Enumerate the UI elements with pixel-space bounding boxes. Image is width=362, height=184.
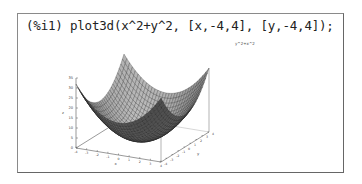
svg-text:x: x (115, 161, 118, 166)
svg-text:-4: -4 (164, 162, 167, 166)
svg-text:y: y (197, 151, 200, 156)
svg-text:1: 1 (194, 143, 196, 147)
svg-text:3: 3 (206, 135, 208, 139)
svg-text:-1: -1 (182, 150, 185, 154)
svg-text:-2: -2 (176, 154, 179, 158)
svg-text:-1: -1 (106, 155, 109, 159)
surface-plot: 05101520253035z-4-3-2-101234x-4-3-2-1012… (18, 38, 343, 172)
svg-text:0: 0 (188, 147, 190, 151)
input-line[interactable]: (%i1) plot3d(x^2+y^2, [x,-4,4], [y,-4,4]… (26, 18, 334, 33)
svg-text:-3: -3 (85, 151, 88, 155)
svg-text:0: 0 (117, 157, 119, 161)
svg-text:4: 4 (160, 164, 162, 168)
svg-text:z: z (62, 110, 64, 115)
svg-text:10: 10 (68, 126, 73, 130)
input-command[interactable]: plot3d(x^2+y^2, [x,-4,4], [y,-4,4]); (70, 18, 334, 33)
svg-text:35: 35 (68, 76, 73, 80)
svg-text:2: 2 (139, 160, 141, 164)
notebook-cell[interactable]: (%i1) plot3d(x^2+y^2, [x,-4,4], [y,-4,4]… (17, 13, 344, 173)
svg-text:3: 3 (149, 162, 151, 166)
svg-text:20: 20 (68, 106, 73, 110)
svg-text:25: 25 (68, 96, 73, 100)
svg-text:30: 30 (68, 86, 73, 90)
svg-text:5: 5 (71, 136, 73, 140)
svg-text:1: 1 (128, 158, 130, 162)
svg-text:2: 2 (200, 139, 202, 143)
svg-text:-2: -2 (96, 153, 99, 157)
svg-text:-3: -3 (170, 158, 173, 162)
input-prompt: (%i1) (26, 18, 63, 33)
svg-text:0: 0 (71, 146, 74, 150)
svg-text:15: 15 (68, 116, 73, 120)
svg-text:4: 4 (212, 132, 214, 136)
svg-text:-4: -4 (74, 150, 77, 154)
